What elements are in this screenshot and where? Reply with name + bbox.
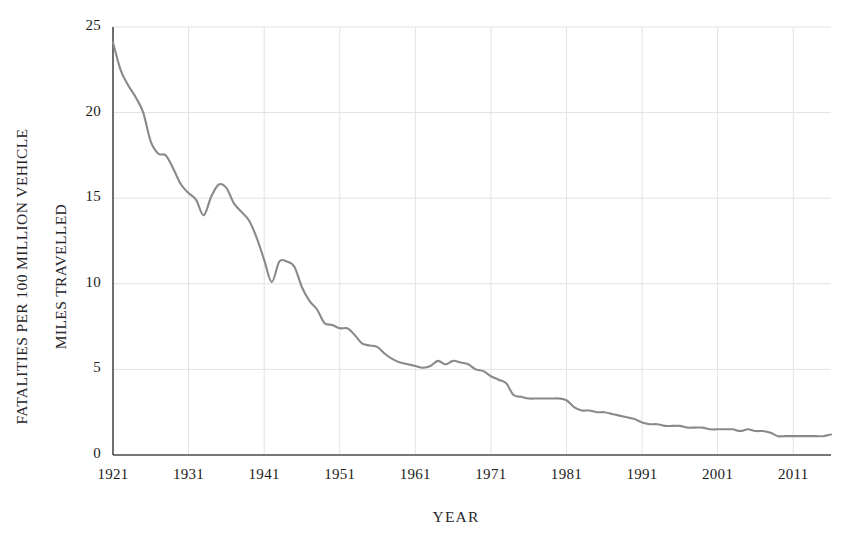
axis-lines-group — [113, 27, 831, 455]
plot-area — [0, 0, 848, 546]
x-tick-label: 1921 — [78, 466, 148, 483]
x-tick-label: 1981 — [531, 466, 601, 483]
x-tick-label: 2011 — [758, 466, 828, 483]
x-tick-label: 1931 — [154, 466, 224, 483]
x-tick-label: 1991 — [607, 466, 677, 483]
series-line — [113, 42, 831, 436]
x-tick-label: 2001 — [683, 466, 753, 483]
x-axis-title: YEAR — [0, 508, 848, 526]
y-tick-label: 20 — [61, 103, 101, 120]
x-tick-label: 1951 — [305, 466, 375, 483]
x-tick-label: 1941 — [229, 466, 299, 483]
gridlines-group — [113, 27, 831, 455]
x-axis-title-text: YEAR — [433, 508, 480, 525]
y-tick-label: 25 — [61, 17, 101, 34]
x-tick-label: 1961 — [380, 466, 450, 483]
y-tick-label: 5 — [61, 359, 101, 376]
y-tick-label: 10 — [61, 274, 101, 291]
y-tick-label: 0 — [61, 445, 101, 462]
y-tick-label: 15 — [61, 188, 101, 205]
data-series-group — [113, 42, 831, 436]
fatality-rate-line-chart: FATALITIES PER 100 MILLION VEHICLE MILES… — [0, 0, 848, 546]
x-tick-label: 1971 — [456, 466, 526, 483]
